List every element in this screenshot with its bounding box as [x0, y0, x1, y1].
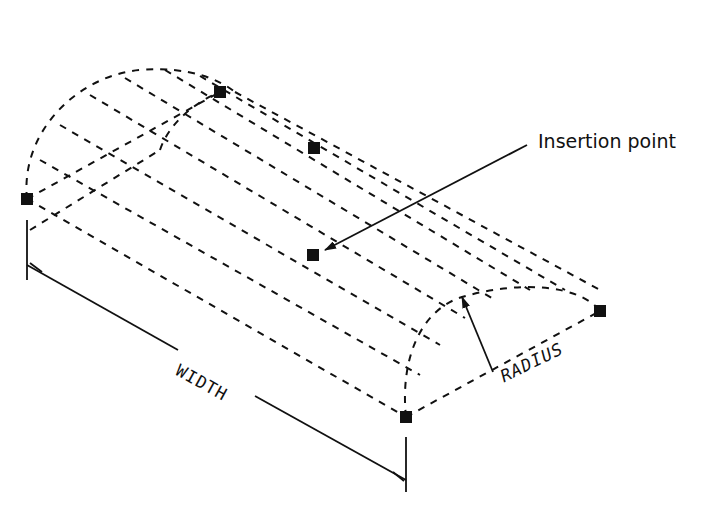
insertion-point-label: Insertion point: [538, 130, 676, 152]
back-profile-arc: [26, 69, 235, 199]
left-base-grip[interactable]: [21, 193, 33, 205]
top-center-grip[interactable]: [308, 142, 320, 154]
front-base-grip[interactable]: [400, 411, 412, 423]
width-dimension: [27, 220, 406, 492]
diagram-canvas: [0, 0, 714, 509]
radius-arrow: [462, 297, 493, 372]
insertion-point-grip[interactable]: [307, 249, 319, 261]
tick-right: [393, 472, 404, 481]
front-profile-arc: [405, 287, 600, 417]
ridge-line: [235, 92, 600, 290]
top-left-arc-grip[interactable]: [214, 86, 226, 98]
dimension-line-right: [255, 396, 406, 480]
back-base-edge: [27, 92, 220, 199]
right-base-grip[interactable]: [594, 305, 606, 317]
dimension-line-left: [27, 265, 178, 350]
